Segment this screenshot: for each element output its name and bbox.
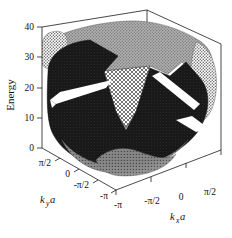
band-structure-figure: 40 30 20 10 0 Energy π/2 0 -π/2 -π k y a… bbox=[0, 0, 232, 238]
ky-axis-title-a: a bbox=[50, 194, 55, 205]
ky-tick-neg-pi-half: -π/2 bbox=[74, 180, 90, 190]
energy-tick-30: 30 bbox=[25, 52, 35, 62]
ky-tick-pi-half: π/2 bbox=[39, 158, 51, 168]
kx-tick-neg-pi-half: -π/2 bbox=[144, 196, 160, 206]
energy-axis-ticks bbox=[37, 27, 42, 148]
energy-tick-40: 40 bbox=[25, 22, 35, 32]
surface-plot-canvas: 40 30 20 10 0 Energy π/2 0 -π/2 -π k y a… bbox=[0, 0, 232, 238]
kx-tick-labels: -π -π/2 0 π/2 bbox=[114, 187, 216, 210]
kx-axis-title-k: k bbox=[170, 211, 175, 222]
ky-tick-neg-pi: -π bbox=[100, 191, 108, 201]
energy-tick-20: 20 bbox=[25, 83, 35, 93]
ky-axis-title: k y a bbox=[40, 194, 55, 208]
ky-axis-title-k: k bbox=[40, 194, 45, 205]
kx-tick-zero: 0 bbox=[179, 192, 184, 202]
kx-axis-title-a: a bbox=[180, 211, 185, 222]
energy-tick-labels: 40 30 20 10 0 bbox=[25, 22, 35, 153]
energy-tick-10: 10 bbox=[25, 113, 35, 123]
energy-tick-0: 0 bbox=[29, 143, 34, 153]
kx-tick-neg-pi: -π bbox=[114, 200, 122, 210]
energy-axis-title: Energy bbox=[4, 79, 16, 111]
kx-tick-pi-half: π/2 bbox=[204, 187, 216, 197]
ky-tick-zero: 0 bbox=[65, 169, 70, 179]
kx-axis-title: k x a bbox=[170, 211, 185, 225]
